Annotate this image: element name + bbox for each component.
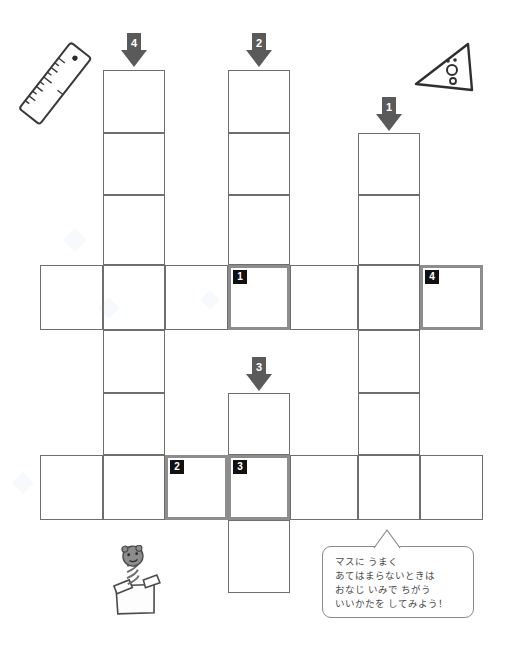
watermark-diamond-icon (60, 225, 90, 255)
watermark-diamond-icon (96, 295, 122, 321)
watermark-diamond-icon (198, 288, 222, 312)
speech-bubble-tail-icon (372, 529, 402, 549)
hint-line: おなじ いみで ちがう (335, 583, 463, 597)
crossword-cell[interactable] (40, 455, 103, 520)
arrow-down-1-icon: 1 (376, 97, 402, 131)
crossword-cell[interactable] (103, 133, 165, 195)
crossword-cell[interactable] (103, 195, 165, 265)
worksheet-canvas: 1432 4213 マスに うまくあてはまらないときはおなじ いみで ちがういい… (0, 0, 508, 672)
crossword-cell[interactable] (103, 393, 165, 455)
cell-number-badge: 1 (233, 270, 247, 284)
hint-line: いいかたを してみよう！ (335, 597, 463, 611)
hint-speech-bubble: マスに うまくあてはまらないときはおなじ いみで ちがういいかたを してみよう！ (322, 546, 474, 618)
crossword-cell[interactable] (358, 455, 420, 520)
arrow-down-3-icon: 3 (246, 357, 272, 391)
crossword-cell[interactable] (358, 265, 420, 330)
jack-in-the-box-illustration (100, 545, 172, 617)
crossword-cell[interactable] (290, 265, 358, 330)
arrow-number-label: 4 (121, 33, 147, 53)
cell-number-badge: 4 (425, 270, 439, 284)
crossword-cell[interactable] (228, 195, 290, 265)
crossword-cell[interactable] (420, 455, 483, 520)
crossword-cell[interactable] (228, 393, 290, 455)
watermark-diamond-icon (10, 470, 36, 496)
cell-number-badge: 3 (233, 460, 247, 474)
cell-number-badge: 2 (170, 460, 184, 474)
hint-line: あてはまらないときは (335, 569, 463, 583)
crossword-cell[interactable] (228, 520, 290, 593)
crossword-cell[interactable] (228, 133, 290, 195)
crossword-cell[interactable] (290, 455, 358, 520)
ruler-illustration (14, 38, 98, 130)
crossword-cell[interactable] (358, 393, 420, 455)
crossword-cell-highlighted[interactable]: 3 (228, 455, 290, 520)
hint-line: マスに うまく (335, 555, 463, 569)
crossword-cell-highlighted[interactable]: 2 (165, 455, 228, 520)
crossword-cell[interactable] (358, 330, 420, 393)
crossword-cell[interactable] (358, 195, 420, 265)
arrow-down-4-icon: 4 (121, 33, 147, 67)
triangle-ruler-illustration (410, 40, 490, 100)
arrow-number-label: 2 (246, 33, 272, 53)
crossword-cell[interactable] (228, 70, 290, 133)
crossword-cell[interactable] (103, 455, 165, 520)
crossword-cell-highlighted[interactable]: 1 (228, 265, 290, 330)
arrow-down-2-icon: 2 (246, 33, 272, 67)
crossword-cell-highlighted[interactable]: 4 (420, 265, 483, 330)
arrow-number-label: 1 (376, 97, 402, 117)
crossword-cell[interactable] (103, 330, 165, 393)
crossword-cell[interactable] (358, 133, 420, 195)
crossword-cell[interactable] (103, 70, 165, 133)
arrow-number-label: 3 (246, 357, 272, 377)
crossword-cell[interactable] (40, 265, 103, 330)
